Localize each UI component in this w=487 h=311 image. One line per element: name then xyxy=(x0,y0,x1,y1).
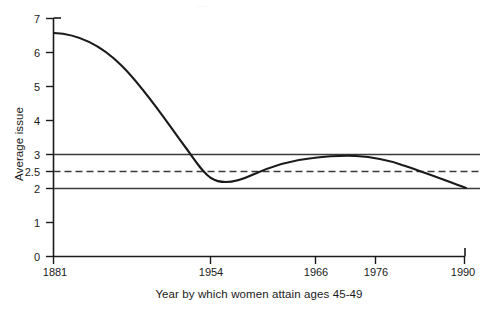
axis-lines xyxy=(53,18,465,257)
average-issue-curve xyxy=(54,33,466,188)
x-tick-label-1976: 1976 xyxy=(364,267,388,278)
x-axis-ticks xyxy=(54,257,465,265)
x-axis-title: Year by which women attain ages 45-49 xyxy=(53,288,465,300)
y-tick-label-0: 0 xyxy=(10,252,40,263)
x-tick-label-1881: 1881 xyxy=(43,267,67,278)
y-axis-title: Average issue xyxy=(13,79,25,209)
y-tick-label-1: 1 xyxy=(10,218,40,229)
x-tick-label-1990: 1990 xyxy=(451,267,475,278)
chart-plot-area xyxy=(0,0,487,311)
x-tick-label-1954: 1954 xyxy=(199,267,223,278)
y-tick-label-7: 7 xyxy=(10,14,40,25)
chart-figure: ..... xyxy=(0,0,487,311)
y-axis-ticks xyxy=(46,19,54,257)
y-tick-label-6: 6 xyxy=(10,48,40,59)
x-tick-label-1966: 1966 xyxy=(304,267,328,278)
